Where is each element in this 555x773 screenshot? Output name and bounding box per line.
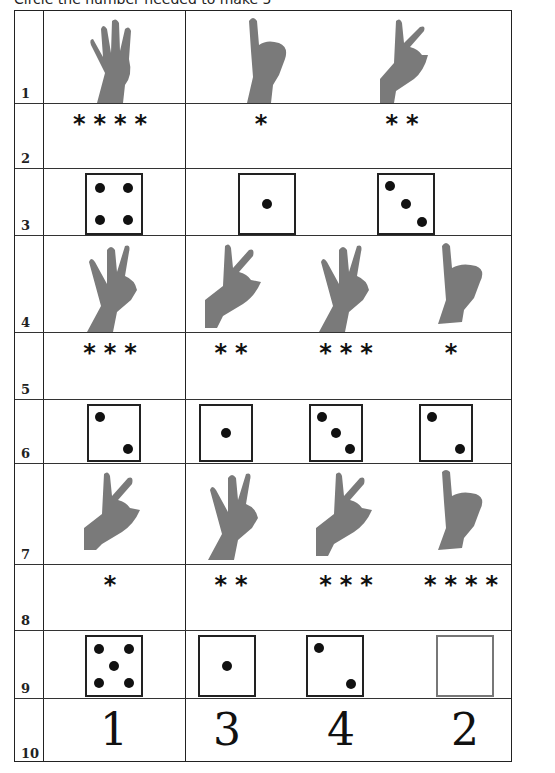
option-number[interactable]: 2 (435, 699, 495, 763)
number-value: 1 (100, 699, 128, 763)
die-one-icon (198, 635, 256, 697)
number-value: 4 (327, 699, 355, 763)
row-5: 5 *** ** *** * (15, 332, 511, 399)
die-one-icon (238, 173, 296, 235)
row-1: 1 (15, 11, 511, 103)
star-group: **** (424, 565, 506, 630)
die-three-icon (309, 404, 363, 462)
row-10: 10 1 3 4 2 (15, 698, 511, 763)
row-number: 1 (21, 86, 30, 101)
option-die-empty[interactable] (435, 631, 495, 698)
option-hand-3-fingers[interactable] (311, 236, 381, 332)
option-die[interactable] (196, 400, 256, 463)
option-hand-3-fingers[interactable] (200, 464, 270, 564)
star-group: ** (385, 104, 426, 168)
option-stars[interactable]: *** (305, 333, 395, 399)
star-group: *** (319, 565, 381, 630)
option-hand-2-fingers[interactable] (371, 11, 441, 103)
hand-two-fingers-icon (374, 15, 438, 103)
row-number: 10 (21, 746, 39, 761)
option-die[interactable] (305, 631, 365, 698)
die-five-icon (85, 635, 143, 697)
row-7: 7 (15, 463, 511, 564)
option-hand-1-finger[interactable] (425, 236, 495, 332)
option-die[interactable] (237, 169, 297, 235)
prompt-hand-4-fingers (43, 11, 185, 103)
hand-one-finger-icon (428, 468, 492, 556)
hand-two-fingers-icon (314, 468, 378, 556)
star-group: * (255, 104, 276, 168)
option-stars[interactable]: *** (305, 565, 395, 630)
hand-one-finger-icon (428, 240, 492, 328)
hand-two-fingers-icon (203, 240, 267, 328)
option-hand-1-finger[interactable] (425, 464, 495, 564)
die-one-icon (199, 404, 253, 462)
row-8: 8 * ** *** **** (15, 564, 511, 630)
prompt-hand-2-fingers (43, 464, 185, 564)
hand-four-fingers-icon (79, 15, 149, 103)
prompt-stars: **** (43, 104, 185, 168)
option-die[interactable] (416, 400, 476, 463)
option-stars[interactable]: * (230, 104, 300, 168)
option-die[interactable] (197, 631, 257, 698)
option-hand-2-fingers[interactable] (200, 236, 270, 332)
prompt-die (43, 169, 185, 235)
row-number: 6 (21, 446, 30, 461)
prompt-stars: * (43, 565, 185, 630)
die-two-icon (419, 404, 473, 462)
die-three-icon (377, 173, 435, 235)
option-number[interactable]: 4 (311, 699, 371, 763)
hand-three-fingers-icon (202, 468, 268, 560)
hand-two-fingers-icon (82, 468, 146, 556)
star-group: *** (83, 333, 145, 399)
prompt-number: 1 (43, 699, 185, 763)
option-stars[interactable]: ** (200, 333, 270, 399)
option-die[interactable] (376, 169, 436, 235)
row-number: 5 (21, 382, 30, 397)
option-hand-2-fingers[interactable] (311, 464, 381, 564)
row-number: 3 (21, 218, 30, 233)
hand-three-fingers-icon (313, 240, 379, 332)
number-value: 2 (451, 699, 479, 763)
die-blank-icon (436, 635, 494, 697)
option-stars[interactable]: ** (200, 565, 270, 630)
prompt-stars: *** (43, 333, 185, 399)
row-number: 4 (21, 315, 30, 330)
option-stars[interactable]: **** (410, 565, 520, 630)
row-9: 9 (15, 630, 511, 698)
die-two-icon (306, 635, 364, 697)
prompt-die (43, 400, 185, 463)
star-group: ** (214, 565, 255, 630)
hand-one-finger-icon (233, 15, 297, 103)
row-number: 8 (21, 613, 30, 628)
option-stars[interactable]: * (425, 333, 485, 399)
die-two-icon (87, 404, 141, 462)
star-group: * (104, 565, 125, 630)
hand-three-fingers-icon (81, 240, 147, 332)
row-2: 2 **** * ** (15, 103, 511, 168)
option-number[interactable]: 3 (197, 699, 257, 763)
instruction-header: Circle the number needed to make 5 (14, 0, 272, 7)
prompt-hand-3-fingers (43, 236, 185, 332)
worksheet-table: 1 2 **** * ** 3 (14, 10, 512, 762)
star-group: **** (73, 104, 155, 168)
prompt-die (43, 631, 185, 698)
die-four-icon (85, 173, 143, 235)
star-group: *** (319, 333, 381, 399)
row-number: 7 (21, 547, 30, 562)
number-value: 3 (213, 699, 241, 763)
star-group: * (445, 333, 466, 399)
row-3: 3 (15, 168, 511, 235)
option-hand-1-finger[interactable] (230, 11, 300, 103)
option-stars[interactable]: ** (371, 104, 441, 168)
row-number: 9 (21, 681, 30, 696)
star-group: ** (214, 333, 255, 399)
option-die[interactable] (306, 400, 366, 463)
row-4: 4 (15, 235, 511, 332)
row-6: 6 (15, 399, 511, 463)
row-number: 2 (21, 151, 30, 166)
